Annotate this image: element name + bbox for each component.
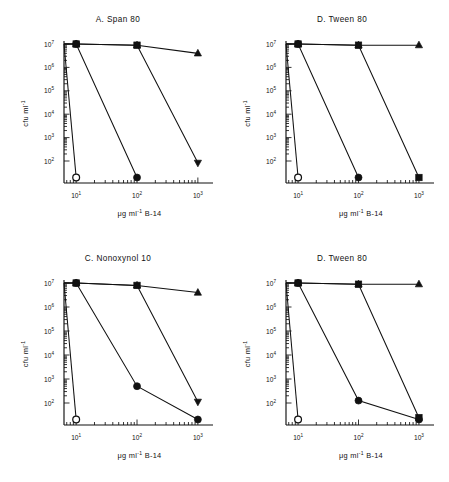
series-line-triangle-up [286, 44, 419, 45]
y-tick-label: 106 [44, 303, 54, 311]
x-axis-label-tail: B-14 [142, 209, 161, 218]
panel-c-title: C. Nonoxynol 10 [85, 254, 152, 263]
x-tick-label: 103 [414, 191, 424, 199]
series-line-triangle-up [286, 283, 419, 284]
y-tick-exponent: 4 [51, 110, 54, 115]
y-axis-label-exponent: -1 [242, 100, 248, 105]
series-line-filled-circle [64, 283, 198, 420]
y-axis-label-exponent: -1 [20, 100, 26, 105]
y-tick-exponent: 5 [273, 327, 276, 332]
x-tick-label: 102 [354, 433, 364, 441]
y-tick-label: 106 [266, 303, 276, 311]
panel-b-data [286, 40, 423, 181]
series-line-filled-square [286, 44, 419, 178]
y-axis-label-exponent: -1 [20, 341, 26, 346]
x-tick-exponent: 1 [300, 191, 303, 196]
x-axis-label-tail: B-14 [364, 451, 383, 460]
y-tick-exponent: 6 [273, 63, 276, 68]
marker-triangle-down [194, 160, 201, 167]
y-tick-label: 103 [266, 133, 276, 141]
series-line-filled-circle [286, 283, 419, 420]
series-line-open-circle [64, 44, 76, 178]
y-tick-label: 105 [266, 86, 276, 94]
x-tick-exponent: 3 [421, 433, 424, 438]
y-tick-label: 103 [44, 133, 54, 141]
y-tick-label: 102 [44, 157, 54, 165]
marker-circle-filled [355, 397, 362, 404]
y-tick-label: 105 [44, 327, 54, 335]
y-tick-label: 102 [266, 399, 276, 407]
series-line-triangle-up [64, 283, 198, 293]
y-tick-exponent: 4 [51, 351, 54, 356]
marker-circle-open [295, 416, 302, 423]
y-tick-label: 105 [266, 327, 276, 335]
panel-c-ticklabels: 102103104105106107101102103cfu ml-1μg ml… [20, 279, 203, 460]
x-tick-label: 103 [414, 433, 424, 441]
y-tick-label: 102 [44, 399, 54, 407]
y-tick-exponent: 2 [273, 157, 276, 162]
series-line-open-circle [286, 44, 298, 178]
panel-a-data [64, 40, 201, 181]
x-tick-label: 101 [71, 191, 81, 199]
y-tick-label: 104 [44, 110, 54, 118]
x-axis-label-tail: B-14 [142, 451, 161, 460]
y-tick-label: 107 [266, 279, 276, 287]
series-line-triangle-up [64, 44, 198, 53]
y-tick-label: 103 [266, 375, 276, 383]
y-tick-label: 104 [266, 351, 276, 359]
y-tick-exponent: 3 [51, 375, 54, 380]
y-tick-label: 104 [266, 110, 276, 118]
y-tick-label: 107 [44, 279, 54, 287]
series-line-filled-circle [64, 44, 137, 178]
panel-b: D. Tween 80 102103104105106107101102103c… [228, 0, 449, 232]
y-axis-label: cfu ml-1 [20, 341, 30, 368]
x-tick-exponent: 2 [139, 433, 142, 438]
panel-a: A. Span 80 102103104105106107101102103cf… [0, 0, 228, 232]
marker-circle-open [73, 174, 80, 181]
panel-a-plot: A. Span 80 102103104105106107101102103cf… [0, 0, 228, 232]
y-tick-label: 107 [266, 40, 276, 48]
y-tick-exponent: 6 [51, 63, 54, 68]
y-tick-exponent: 5 [273, 86, 276, 91]
marker-circle-filled [134, 174, 141, 181]
marker-triangle-up [415, 41, 422, 48]
y-tick-label: 106 [266, 63, 276, 71]
panel-c-data [64, 279, 201, 423]
x-tick-label: 103 [193, 191, 203, 199]
x-tick-label: 101 [71, 433, 81, 441]
panel-a-axes [64, 41, 213, 183]
x-tick-exponent: 1 [79, 433, 82, 438]
panel-d-title: D. Tween 80 [317, 254, 367, 263]
y-tick-exponent: 4 [273, 351, 276, 356]
panel-c: C. Nonoxynol 10 102103104105106107101102… [0, 232, 228, 482]
x-tick-exponent: 1 [79, 191, 82, 196]
panel-a-title: A. Span 80 [96, 15, 141, 24]
y-tick-exponent: 4 [273, 110, 276, 115]
x-tick-exponent: 2 [361, 191, 364, 196]
series-line-filled-circle [286, 44, 359, 178]
y-tick-exponent: 2 [51, 399, 54, 404]
y-tick-label: 102 [266, 157, 276, 165]
y-tick-exponent: 7 [273, 40, 276, 45]
y-axis-label: cfu ml-1 [20, 100, 30, 127]
y-tick-label: 104 [44, 351, 54, 359]
marker-circle-open [295, 174, 302, 181]
x-tick-exponent: 3 [200, 433, 203, 438]
y-tick-exponent: 5 [51, 86, 54, 91]
x-tick-label: 101 [293, 433, 303, 441]
panel-d: D. Tween 80 102103104105106107101102103c… [228, 232, 449, 482]
x-tick-exponent: 3 [200, 191, 203, 196]
y-tick-exponent: 6 [273, 303, 276, 308]
x-tick-exponent: 2 [139, 191, 142, 196]
y-tick-label: 103 [44, 375, 54, 383]
figure-root: A. Span 80 102103104105106107101102103cf… [0, 0, 449, 482]
marker-triangle-up [415, 280, 422, 287]
y-axis-label: cfu ml-1 [242, 341, 252, 368]
y-tick-label: 105 [44, 86, 54, 94]
series-line-filled-square [286, 283, 419, 418]
y-tick-exponent: 7 [51, 279, 54, 284]
marker-circle-filled [194, 416, 201, 423]
x-tick-exponent: 1 [300, 433, 303, 438]
series-line-filled-square [64, 283, 198, 402]
x-tick-label: 101 [293, 191, 303, 199]
